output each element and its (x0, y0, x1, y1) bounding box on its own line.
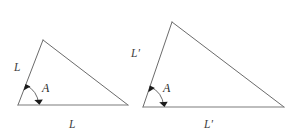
left-triangle-base-label: L (68, 118, 76, 130)
similar-triangles-figure: L L A L′ L′ A (0, 0, 302, 136)
right-triangle-base-label: L′ (203, 118, 214, 130)
left-triangle-left-side-label: L (13, 61, 21, 73)
right-triangle-hypotenuse (172, 22, 284, 107)
right-triangle-group: L′ L′ A (130, 22, 284, 130)
left-triangle-left-side (18, 40, 43, 105)
figure-canvas: L L A L′ L′ A (0, 0, 302, 136)
left-triangle-angle-label: A (41, 81, 50, 95)
right-triangle-angle-arrowhead-lower (159, 102, 168, 107)
left-triangle-hypotenuse (43, 40, 128, 105)
right-triangle-angle-label: A (162, 81, 171, 95)
left-triangle-angle-arrowhead-lower (34, 100, 43, 105)
left-triangle-group: L L A (13, 40, 128, 130)
right-triangle-left-side-label: L′ (130, 47, 141, 59)
